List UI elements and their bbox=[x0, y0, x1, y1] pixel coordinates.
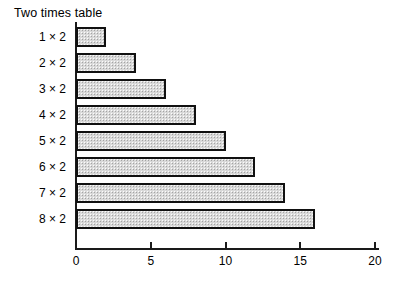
y-tick-label-text: 4 × 2 bbox=[4, 108, 66, 122]
x-tick-10 bbox=[225, 242, 227, 249]
y-tick-label-8: 8 × 2 bbox=[0, 212, 66, 226]
x-tick-5 bbox=[150, 242, 152, 249]
x-tick-15 bbox=[299, 242, 301, 249]
y-tick-label-text: 1 × 2 bbox=[4, 30, 66, 44]
x-axis-line bbox=[75, 248, 379, 250]
bar-rect bbox=[76, 105, 196, 125]
bar-chart: Two times table 1 × 22 × 23 × 24 × 25 × … bbox=[0, 0, 403, 288]
x-tick-20 bbox=[374, 242, 376, 249]
y-tick-label-text: 8 × 2 bbox=[4, 212, 66, 226]
y-tick-label-2: 2 × 2 bbox=[0, 56, 66, 70]
y-tick-label-7: 7 × 2 bbox=[0, 186, 66, 200]
y-tick-label-text: 6 × 2 bbox=[4, 160, 66, 174]
bar-rect bbox=[76, 209, 315, 229]
y-tick-label-text: 7 × 2 bbox=[4, 186, 66, 200]
y-tick-label-4: 4 × 2 bbox=[0, 108, 66, 122]
y-tick-label-text: 2 × 2 bbox=[4, 56, 66, 70]
bar-rect bbox=[76, 79, 166, 99]
y-tick-label-1: 1 × 2 bbox=[0, 30, 66, 44]
y-tick-label-5: 5 × 2 bbox=[0, 134, 66, 148]
y-tick-label-text: 3 × 2 bbox=[4, 82, 66, 96]
x-tick-label-15: 15 bbox=[280, 254, 320, 268]
bar-rect bbox=[76, 53, 136, 73]
bar-rect bbox=[76, 183, 285, 203]
y-tick-label-3: 3 × 2 bbox=[0, 82, 66, 96]
bar-rect bbox=[76, 27, 106, 47]
y-tick-label-text: 5 × 2 bbox=[4, 134, 66, 148]
x-tick-label-10: 10 bbox=[206, 254, 246, 268]
y-tick-label-6: 6 × 2 bbox=[0, 160, 66, 174]
x-tick-label-20: 20 bbox=[355, 254, 395, 268]
plot-area: 1 × 22 × 23 × 24 × 25 × 26 × 27 × 28 × 2… bbox=[0, 0, 403, 288]
x-tick-label-5: 5 bbox=[131, 254, 171, 268]
x-tick-0 bbox=[75, 242, 77, 249]
bar-rect bbox=[76, 157, 255, 177]
bar-rect bbox=[76, 131, 226, 151]
x-tick-label-0: 0 bbox=[56, 254, 96, 268]
